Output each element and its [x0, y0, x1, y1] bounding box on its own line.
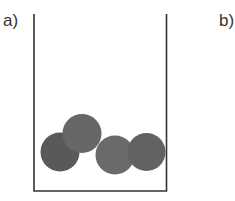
particle-4	[128, 133, 166, 171]
particles-group	[41, 114, 166, 175]
panel-a-diagram	[0, 0, 235, 201]
particle-2	[63, 114, 102, 153]
